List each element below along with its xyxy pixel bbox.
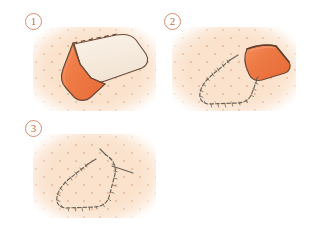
step-panel-2	[172, 27, 296, 111]
orange-lifted-flap	[245, 45, 290, 80]
basting-stitch-outline-complete	[57, 149, 133, 211]
step-3-artwork	[33, 134, 156, 218]
step-2-artwork	[172, 27, 296, 111]
step-panel-3	[33, 134, 156, 218]
step-1-artwork	[33, 27, 156, 111]
step-panel-1	[33, 27, 156, 111]
diagram-canvas: 1	[0, 0, 309, 229]
